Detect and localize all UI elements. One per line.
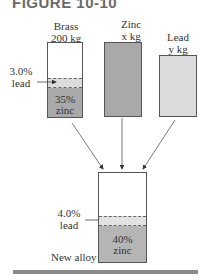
brass-arrow <box>72 123 103 169</box>
bottom-rule <box>13 270 198 274</box>
alloy-zinc-text: 40% zinc <box>99 234 146 256</box>
new-alloy-container: 40% zinc <box>98 172 147 263</box>
new-alloy-label: New alloy <box>51 251 97 263</box>
alloy-lead-label: 4.0% lead <box>54 207 84 231</box>
alloy-lead-top-dash <box>99 216 146 217</box>
alloy-lead-bottom-dash <box>99 225 146 226</box>
alloy-lead-pct: 4.0% <box>54 207 84 219</box>
lead-arrow <box>143 120 175 169</box>
alloy-lead-word: lead <box>54 219 84 231</box>
alloy-zinc-word: zinc <box>99 245 146 256</box>
